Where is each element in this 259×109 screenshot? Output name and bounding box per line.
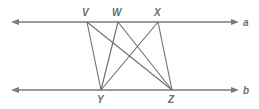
line-a-label: a	[243, 17, 249, 28]
arrowhead-right-icon	[231, 87, 239, 93]
point-X-label: X	[153, 7, 162, 18]
arrowhead-left-icon	[11, 19, 19, 25]
arrowhead-right-icon	[231, 19, 239, 25]
parallel-lines-diagram: a b V W X Y Z	[0, 0, 259, 109]
point-Z-label: Z	[167, 94, 175, 105]
point-Y-label: Y	[97, 94, 105, 105]
arrowhead-left-icon	[11, 87, 19, 93]
segment-WZ	[118, 22, 172, 90]
point-W-label: W	[112, 7, 123, 18]
line-b: b	[11, 85, 249, 96]
line-b-label: b	[243, 85, 249, 96]
line-a: a	[11, 17, 249, 28]
point-V-label: V	[82, 7, 90, 18]
segments	[87, 22, 172, 90]
